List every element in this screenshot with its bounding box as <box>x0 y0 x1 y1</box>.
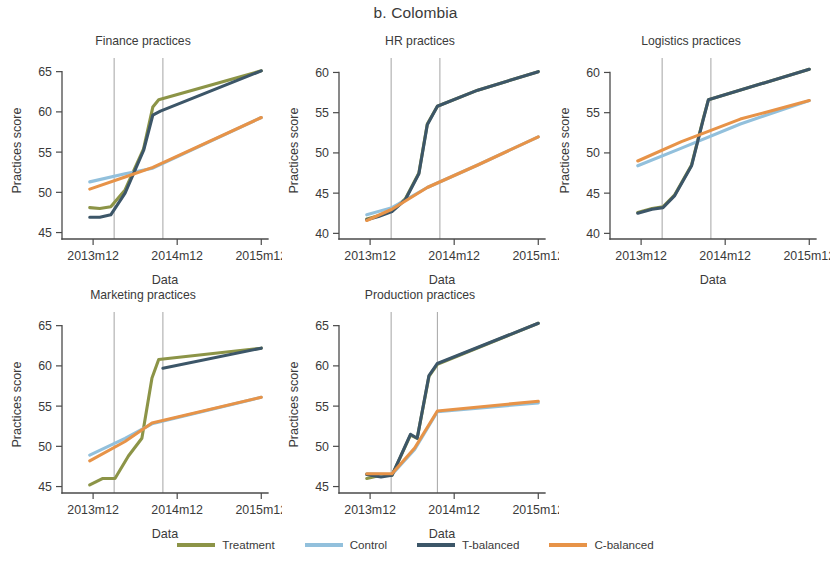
y-tick-label: 45 <box>586 187 600 201</box>
legend-swatch-icon <box>417 543 455 547</box>
x-tick-label: 2013m12 <box>615 249 667 263</box>
y-axis-title: Practices score <box>10 361 24 447</box>
y-axis-title: Practices score <box>10 107 24 193</box>
plot-area-marketing: 45505560652013m122014m122015m12DataPract… <box>4 306 282 553</box>
y-tick-label: 45 <box>38 226 52 240</box>
y-tick-label: 50 <box>315 146 329 160</box>
y-tick-label: 65 <box>38 319 52 333</box>
x-tick-label: 2015m12 <box>235 503 282 517</box>
x-axis-title: Data <box>700 273 727 287</box>
y-tick-label: 50 <box>586 146 600 160</box>
series-line-control <box>367 403 539 475</box>
panel-production: Production practices45505560652013m12201… <box>281 288 559 553</box>
x-tick-label: 2013m12 <box>344 249 396 263</box>
y-tick-label: 55 <box>38 146 52 160</box>
y-tick-label: 50 <box>315 440 329 454</box>
panel-title: Marketing practices <box>4 288 282 302</box>
series-line-t-balanced <box>367 72 539 220</box>
legend-swatch-icon <box>305 543 343 547</box>
x-tick-label: 2013m12 <box>67 503 119 517</box>
panel-title: HR practices <box>281 34 559 48</box>
y-tick-label: 60 <box>38 105 52 119</box>
series-line-treatment <box>638 69 810 212</box>
plot-area-finance: 45505560652013m122014m122015m12DataPract… <box>4 52 282 299</box>
series-line-t-balanced <box>367 323 539 477</box>
y-tick-label: 50 <box>38 440 52 454</box>
y-axis-title: Practices score <box>287 107 301 193</box>
series-line-treatment <box>367 323 539 478</box>
x-tick-label: 2013m12 <box>67 249 119 263</box>
x-axis-title: Data <box>152 273 179 287</box>
panel-logistics: Logistics practices40455055602013m122014… <box>552 34 830 299</box>
series-line-control <box>638 101 810 166</box>
x-tick-label: 2014m12 <box>428 249 480 263</box>
y-tick-label: 60 <box>315 359 329 373</box>
series-line-c-balanced <box>90 118 262 190</box>
y-tick-label: 55 <box>586 106 600 120</box>
series-line-c-balanced <box>367 137 539 221</box>
panel-hr: HR practices40455055602013m122014m122015… <box>281 34 559 299</box>
x-tick-label: 2015m12 <box>783 249 830 263</box>
y-tick-label: 40 <box>315 227 329 241</box>
plot-area-logistics: 40455055602013m122014m122015m12DataPract… <box>552 52 830 299</box>
panel-finance: Finance practices45505560652013m122014m1… <box>4 34 282 299</box>
y-axis-title: Practices score <box>558 107 572 193</box>
y-tick-label: 55 <box>315 400 329 414</box>
legend-item-control[interactable]: Control <box>305 538 387 551</box>
y-tick-label: 60 <box>38 359 52 373</box>
x-tick-label: 2014m12 <box>428 503 480 517</box>
y-tick-label: 55 <box>315 106 329 120</box>
x-tick-label: 2014m12 <box>699 249 751 263</box>
y-axis-title: Practices score <box>287 361 301 447</box>
x-axis-title: Data <box>429 273 456 287</box>
series-line-treatment <box>367 72 539 219</box>
series-line-t-balanced <box>638 69 810 213</box>
y-tick-label: 45 <box>38 480 52 494</box>
legend-item-t-balanced[interactable]: T-balanced <box>417 538 519 551</box>
figure-title: b. Colombia <box>0 4 831 22</box>
y-tick-label: 60 <box>315 66 329 80</box>
plot-area-hr: 40455055602013m122014m122015m12DataPract… <box>281 52 559 299</box>
legend-item-treatment[interactable]: Treatment <box>177 538 274 551</box>
series-line-treatment <box>90 71 262 209</box>
legend-label: T-balanced <box>462 538 519 551</box>
x-tick-label: 2015m12 <box>512 503 559 517</box>
x-tick-label: 2014m12 <box>151 249 203 263</box>
x-tick-label: 2015m12 <box>235 249 282 263</box>
y-tick-label: 45 <box>315 187 329 201</box>
y-tick-label: 55 <box>38 400 52 414</box>
plot-area-production: 45505560652013m122014m122015m12DataPract… <box>281 306 559 553</box>
y-tick-label: 50 <box>38 186 52 200</box>
panel-title: Logistics practices <box>552 34 830 48</box>
legend-label: C-balanced <box>594 538 653 551</box>
legend-item-c-balanced[interactable]: C-balanced <box>549 538 653 551</box>
legend-swatch-icon <box>549 543 587 547</box>
series-line-control <box>90 118 262 182</box>
legend-label: Control <box>350 538 387 551</box>
series-line-c-balanced <box>367 401 539 473</box>
y-tick-label: 60 <box>586 66 600 80</box>
y-tick-label: 65 <box>315 319 329 333</box>
y-tick-label: 65 <box>38 65 52 79</box>
series-line-c-balanced <box>90 397 262 461</box>
legend-swatch-icon <box>177 543 215 547</box>
panel-marketing: Marketing practices45505560652013m122014… <box>4 288 282 553</box>
y-tick-label: 45 <box>315 480 329 494</box>
series-line-t-balanced <box>90 71 262 217</box>
y-tick-label: 40 <box>586 227 600 241</box>
x-tick-label: 2013m12 <box>344 503 396 517</box>
figure-container: b. Colombia Finance practices45505560652… <box>0 0 831 562</box>
x-tick-label: 2014m12 <box>151 503 203 517</box>
panel-title: Production practices <box>281 288 559 302</box>
chart-legend: TreatmentControlT-balancedC-balanced <box>0 538 831 551</box>
legend-label: Treatment <box>222 538 274 551</box>
panel-title: Finance practices <box>4 34 282 48</box>
